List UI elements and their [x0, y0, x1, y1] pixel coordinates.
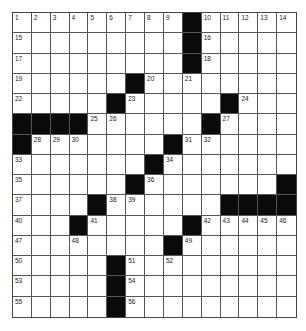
grid-cell[interactable]: [88, 175, 107, 195]
grid-cell[interactable]: [202, 276, 221, 296]
grid-cell[interactable]: [51, 216, 70, 236]
grid-cell[interactable]: [51, 74, 70, 94]
grid-cell[interactable]: [88, 236, 107, 256]
grid-cell[interactable]: 26: [107, 114, 126, 134]
grid-cell[interactable]: [277, 94, 296, 114]
grid-cell[interactable]: [70, 54, 89, 74]
grid-cell[interactable]: [70, 175, 89, 195]
grid-cell[interactable]: 54: [126, 276, 145, 296]
grid-cell[interactable]: [164, 297, 183, 317]
grid-cell[interactable]: [51, 175, 70, 195]
grid-cell[interactable]: [183, 276, 202, 296]
grid-cell[interactable]: 6: [107, 13, 126, 33]
grid-cell[interactable]: [51, 155, 70, 175]
grid-cell[interactable]: [145, 94, 164, 114]
grid-cell[interactable]: [258, 256, 277, 276]
grid-cell[interactable]: [183, 114, 202, 134]
grid-cell[interactable]: [277, 135, 296, 155]
grid-cell[interactable]: 31: [183, 135, 202, 155]
grid-cell[interactable]: [51, 33, 70, 53]
grid-cell[interactable]: [202, 94, 221, 114]
grid-cell[interactable]: [183, 195, 202, 215]
grid-cell[interactable]: [32, 236, 51, 256]
grid-cell[interactable]: 55: [13, 297, 32, 317]
grid-cell[interactable]: [258, 297, 277, 317]
grid-cell[interactable]: 48: [70, 236, 89, 256]
grid-cell[interactable]: [145, 216, 164, 236]
grid-cell[interactable]: [107, 54, 126, 74]
grid-cell[interactable]: [32, 195, 51, 215]
grid-cell[interactable]: [88, 54, 107, 74]
grid-cell[interactable]: [145, 276, 164, 296]
grid-cell[interactable]: [239, 54, 258, 74]
grid-cell[interactable]: [258, 54, 277, 74]
grid-cell[interactable]: [164, 54, 183, 74]
grid-cell[interactable]: 11: [221, 13, 240, 33]
grid-cell[interactable]: 36: [145, 175, 164, 195]
grid-cell[interactable]: [70, 256, 89, 276]
grid-cell[interactable]: [202, 256, 221, 276]
grid-cell[interactable]: [221, 74, 240, 94]
grid-cell[interactable]: [239, 297, 258, 317]
grid-cell[interactable]: 34: [164, 155, 183, 175]
grid-cell[interactable]: [202, 74, 221, 94]
grid-cell[interactable]: [126, 33, 145, 53]
grid-cell[interactable]: [145, 135, 164, 155]
grid-cell[interactable]: [277, 74, 296, 94]
grid-cell[interactable]: 21: [183, 74, 202, 94]
grid-cell[interactable]: [183, 256, 202, 276]
grid-cell[interactable]: 8: [145, 13, 164, 33]
grid-cell[interactable]: [239, 175, 258, 195]
grid-cell[interactable]: [202, 195, 221, 215]
grid-cell[interactable]: [277, 33, 296, 53]
grid-cell[interactable]: [88, 94, 107, 114]
grid-cell[interactable]: [239, 33, 258, 53]
grid-cell[interactable]: [164, 33, 183, 53]
grid-cell[interactable]: [221, 135, 240, 155]
grid-cell[interactable]: 43: [221, 216, 240, 236]
grid-cell[interactable]: [32, 94, 51, 114]
grid-cell[interactable]: 4: [70, 13, 89, 33]
grid-cell[interactable]: [221, 33, 240, 53]
grid-cell[interactable]: [51, 236, 70, 256]
grid-cell[interactable]: 25: [88, 114, 107, 134]
grid-cell[interactable]: [183, 94, 202, 114]
grid-cell[interactable]: 46: [277, 216, 296, 236]
grid-cell[interactable]: [258, 94, 277, 114]
grid-cell[interactable]: [239, 74, 258, 94]
grid-cell[interactable]: [107, 216, 126, 236]
grid-cell[interactable]: 44: [239, 216, 258, 236]
grid-cell[interactable]: 27: [221, 114, 240, 134]
grid-cell[interactable]: 24: [239, 94, 258, 114]
grid-cell[interactable]: [126, 155, 145, 175]
grid-cell[interactable]: [107, 135, 126, 155]
grid-cell[interactable]: [258, 33, 277, 53]
grid-cell[interactable]: 7: [126, 13, 145, 33]
grid-cell[interactable]: [164, 216, 183, 236]
grid-cell[interactable]: [145, 297, 164, 317]
grid-cell[interactable]: [258, 135, 277, 155]
grid-cell[interactable]: [202, 236, 221, 256]
grid-cell[interactable]: 37: [13, 195, 32, 215]
grid-cell[interactable]: [258, 276, 277, 296]
grid-cell[interactable]: [277, 155, 296, 175]
grid-cell[interactable]: [32, 74, 51, 94]
grid-cell[interactable]: [277, 54, 296, 74]
grid-cell[interactable]: [164, 74, 183, 94]
grid-cell[interactable]: [88, 74, 107, 94]
grid-cell[interactable]: [51, 195, 70, 215]
grid-cell[interactable]: 47: [13, 236, 32, 256]
grid-cell[interactable]: [239, 135, 258, 155]
grid-cell[interactable]: 1: [13, 13, 32, 33]
grid-cell[interactable]: 9: [164, 13, 183, 33]
grid-cell[interactable]: [239, 236, 258, 256]
grid-cell[interactable]: 30: [70, 135, 89, 155]
grid-cell[interactable]: [164, 195, 183, 215]
grid-cell[interactable]: [126, 216, 145, 236]
grid-cell[interactable]: 23: [126, 94, 145, 114]
grid-cell[interactable]: 53: [13, 276, 32, 296]
grid-cell[interactable]: [70, 276, 89, 296]
grid-cell[interactable]: [107, 33, 126, 53]
grid-cell[interactable]: 28: [32, 135, 51, 155]
grid-cell[interactable]: 42: [202, 216, 221, 236]
